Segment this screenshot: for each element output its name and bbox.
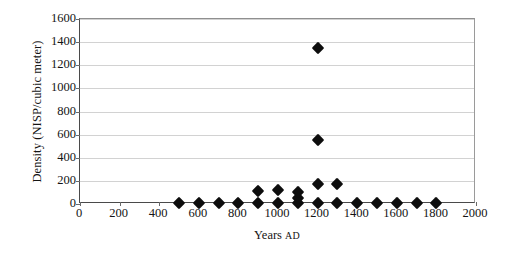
x-axis-title: Years AD: [79, 228, 475, 243]
y-tick-mark: [76, 19, 80, 20]
y-tick-mark: [76, 88, 80, 89]
scatter-chart-figure: Density (NISP/cubic meter) 0200400600800…: [0, 0, 508, 253]
gridline-y: [80, 19, 474, 20]
x-axis-tick-labels: 0200400600800100012001400160018002000: [0, 206, 508, 224]
data-point: [272, 184, 285, 197]
x-tick-label: 0: [76, 206, 82, 220]
x-tick-label: 1800: [423, 206, 448, 220]
y-tick-mark: [76, 158, 80, 159]
y-tick-label: 400: [34, 151, 76, 163]
data-point: [252, 185, 265, 198]
data-point: [311, 42, 324, 55]
gridline-y: [80, 88, 474, 89]
gridline-y: [80, 65, 474, 66]
y-tick-label: 1200: [34, 58, 76, 70]
data-point: [331, 177, 344, 190]
x-tick-label: 1000: [265, 206, 290, 220]
data-point: [311, 177, 324, 190]
gridline-y: [80, 181, 474, 182]
x-axis-title-main: Years: [254, 228, 285, 242]
gridline-y: [80, 112, 474, 113]
x-tick-label: 2000: [463, 206, 488, 220]
y-tick-mark: [76, 65, 80, 66]
gridline-y: [80, 158, 474, 159]
y-tick-label: 600: [34, 128, 76, 140]
x-tick-label: 200: [109, 206, 128, 220]
y-tick-label: 800: [34, 105, 76, 117]
y-tick-mark: [76, 181, 80, 182]
x-tick-label: 800: [228, 206, 247, 220]
x-axis-title-smallcaps: AD: [285, 230, 300, 241]
x-tick-label: 1400: [344, 206, 369, 220]
y-tick-label: 1400: [34, 35, 76, 47]
x-tick-label: 1200: [304, 206, 329, 220]
y-tick-mark: [76, 42, 80, 43]
y-tick-label: 1000: [34, 81, 76, 93]
y-tick-mark: [76, 112, 80, 113]
gridline-y: [80, 42, 474, 43]
gridline-y: [80, 135, 474, 136]
plot-area: [79, 18, 475, 203]
x-tick-label: 600: [188, 206, 207, 220]
y-tick-label: 1600: [34, 12, 76, 24]
x-tick-label: 400: [149, 206, 168, 220]
y-tick-label: 200: [34, 174, 76, 186]
x-tick-label: 1600: [383, 206, 408, 220]
y-tick-mark: [76, 135, 80, 136]
